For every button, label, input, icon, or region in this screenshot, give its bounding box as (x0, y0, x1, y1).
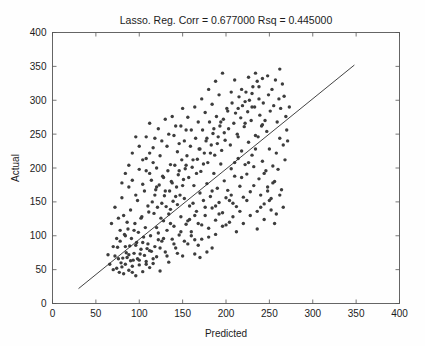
scatter-point (144, 226, 147, 229)
scatter-point (120, 196, 123, 199)
scatter-point (197, 120, 200, 123)
scatter-point (179, 124, 182, 127)
scatter-point (224, 223, 227, 226)
scatter-point (268, 199, 271, 202)
scatter-point (153, 245, 156, 248)
scatter-point (129, 208, 132, 211)
scatter-point (256, 210, 259, 213)
scatter-point (275, 151, 278, 154)
scatter-point (115, 267, 118, 270)
scatter-point (177, 173, 180, 176)
scatter-point (201, 128, 204, 131)
chart-figure: Lasso. Reg. Corr = 0.677000 Rsq = 0.4450… (0, 0, 425, 346)
scatter-point (223, 139, 226, 142)
scatter-point (230, 101, 233, 104)
scatter-point (210, 246, 213, 249)
scatter-point (240, 88, 243, 91)
scatter-point (202, 199, 205, 202)
y-tick-label: 150 (30, 196, 47, 207)
scatter-point (270, 88, 273, 91)
scatter-point (186, 115, 189, 118)
scatter-point (273, 222, 276, 225)
scatter-point (218, 124, 221, 127)
scatter-point (171, 115, 174, 118)
scatter-point (197, 222, 200, 225)
scatter-point (236, 107, 239, 110)
scatter-point (230, 90, 233, 93)
scatter-point (177, 169, 180, 172)
scatter-point (126, 227, 129, 230)
y-tick-labels: 050100150200250300350400 (30, 27, 47, 309)
y-tick-label: 100 (30, 230, 47, 241)
scatter-point (175, 185, 178, 188)
scatter-point (179, 215, 182, 218)
scatter-point (184, 223, 187, 226)
scatter-point (124, 234, 127, 237)
scatter-point (158, 269, 161, 272)
scatter-point (169, 208, 172, 211)
scatter-points (106, 67, 291, 277)
scatter-point (222, 118, 225, 121)
scatter-point (158, 154, 161, 157)
scatter-point (138, 168, 141, 171)
scatter-point (261, 77, 264, 80)
x-tick-label: 150 (174, 308, 191, 319)
scatter-point (258, 113, 261, 116)
scatter-point (197, 244, 200, 247)
scatter-point (232, 122, 235, 125)
scatter-point (277, 97, 280, 100)
scatter-point (116, 246, 119, 249)
scatter-point (224, 196, 227, 199)
scatter-point (233, 174, 236, 177)
scatter-point (282, 94, 285, 97)
scatter-point (198, 256, 201, 259)
scatter-point (214, 204, 217, 207)
scatter-point (243, 163, 246, 166)
scatter-point (156, 206, 159, 209)
scatter-point (187, 176, 190, 179)
scatter-point (132, 229, 135, 232)
scatter-point (149, 234, 152, 237)
scatter-point (226, 109, 229, 112)
scatter-point (144, 263, 147, 266)
scatter-point (157, 127, 160, 130)
scatter-point (214, 80, 217, 83)
scatter-point (139, 216, 142, 219)
scatter-point (237, 95, 240, 98)
scatter-point (124, 263, 127, 266)
scatter-point (162, 176, 165, 179)
scatter-point (191, 158, 194, 161)
scatter-point (144, 169, 147, 172)
scatter-point (148, 172, 151, 175)
scatter-point (271, 181, 274, 184)
scatter-point (163, 194, 166, 197)
scatter-point (122, 214, 125, 217)
scatter-point (146, 242, 149, 245)
scatter-point (231, 202, 234, 205)
fit-line (79, 65, 355, 289)
scatter-point (262, 202, 265, 205)
scatter-point (221, 71, 224, 74)
scatter-point (286, 139, 289, 142)
scatter-point (250, 153, 253, 156)
scatter-point (238, 185, 241, 188)
scatter-point (131, 178, 134, 181)
scatter-point (138, 263, 141, 266)
scatter-point (272, 104, 275, 107)
scatter-point (150, 178, 153, 181)
scatter-point (188, 204, 191, 207)
scatter-point (243, 125, 246, 128)
scatter-point (172, 134, 175, 137)
scatter-point (134, 244, 137, 247)
scatter-point (182, 178, 185, 181)
scatter-point (122, 272, 125, 275)
scatter-point (202, 162, 205, 165)
scatter-point (215, 115, 218, 118)
scatter-point (118, 239, 121, 242)
scatter-point (164, 205, 167, 208)
scatter-point (227, 127, 230, 130)
scatter-point (183, 239, 186, 242)
scatter-point (288, 105, 291, 108)
scatter-point (171, 200, 174, 203)
scatter-point (153, 136, 156, 139)
